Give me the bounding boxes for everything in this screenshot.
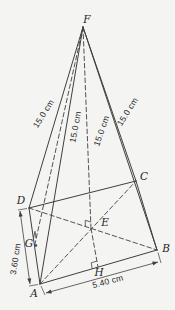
extension-tick-2 [29, 285, 38, 287]
dimension-label-FB: 15.0 cm [115, 96, 140, 128]
vertex-label-D: D [16, 194, 26, 206]
edge-FE-hidden [83, 27, 91, 229]
point-G [35, 244, 37, 246]
edge-FA [40, 27, 83, 284]
edge-CD [29, 181, 136, 208]
right-angle-mark-G [34, 231, 37, 238]
dimension-label-AD: 3.60 cm [8, 242, 23, 275]
dimension-label-FD: 15.0 cm [31, 98, 56, 130]
vertex-label-G: G [25, 237, 33, 249]
vertex-label-F: F [82, 13, 91, 25]
extension-tick-1 [18, 209, 27, 211]
edge-BC [136, 181, 157, 250]
extension-tick-3 [41, 286, 45, 295]
dimension-arrow-AD-start [19, 211, 23, 217]
pyramid-diagram: FABCDEGH15.0 cm15.0 cm15.0 cm15.0 cm3.60… [0, 0, 175, 310]
vertex-label-E: E [100, 216, 109, 228]
edge-DB-hidden [29, 208, 157, 250]
vertex-label-B: B [161, 242, 170, 254]
dimension-arrow-AB-end [152, 262, 158, 266]
extension-tick-4 [158, 253, 161, 264]
dimension-label-FC: 15.0 cm [91, 114, 111, 147]
right-angle-mark-E [85, 220, 91, 226]
vertex-label-C: C [140, 170, 148, 182]
edge-EH-hidden [91, 229, 98, 268]
dimension-arrow-AB-start [46, 290, 52, 294]
dimension-arrow-AD-end [27, 278, 31, 284]
vertex-label-H: H [93, 266, 104, 278]
pyramid-diagram-canvas: FABCDEGH15.0 cm15.0 cm15.0 cm15.0 cm3.60… [0, 0, 175, 310]
vertex-label-A: A [29, 287, 38, 299]
dimension-label-FA: 15.0 cm [67, 110, 83, 143]
